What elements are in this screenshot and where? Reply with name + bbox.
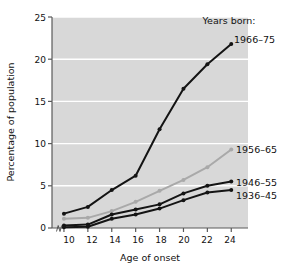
line-chart: 25 20 15 10 5 0 10 12 14 16 18 20 22 24 … <box>0 0 297 271</box>
y-tick-label-25: 25 <box>35 13 46 23</box>
x-tick-label-18: 18 <box>155 235 167 245</box>
y-axis-title: Percentage of population <box>5 62 16 181</box>
data-point <box>181 87 185 91</box>
y-tick-label-5: 5 <box>40 181 46 191</box>
data-point <box>86 205 90 209</box>
x-tick-label-14: 14 <box>109 235 121 245</box>
data-point <box>181 178 185 182</box>
data-point <box>134 174 138 178</box>
data-point <box>181 198 185 202</box>
series-label-1936-45: 1936–45 <box>236 190 277 201</box>
x-tick-label-12: 12 <box>86 235 97 245</box>
data-point <box>158 127 162 131</box>
data-point <box>62 212 66 216</box>
chart-container: 25 20 15 10 5 0 10 12 14 16 18 20 22 24 … <box>0 0 297 271</box>
data-point <box>205 62 209 66</box>
x-tick-label-16: 16 <box>132 235 144 245</box>
data-point <box>110 213 114 217</box>
x-axis-title: Age of onset <box>120 252 180 263</box>
x-tick-label-24: 24 <box>224 235 236 245</box>
data-point <box>86 225 90 229</box>
data-point <box>86 216 90 220</box>
data-point <box>62 217 66 221</box>
series-label-1966-75: 1966–75 <box>234 34 275 45</box>
data-point <box>134 207 138 211</box>
y-tick-label-10: 10 <box>35 139 47 149</box>
data-point <box>181 191 185 195</box>
data-point <box>205 191 209 195</box>
y-tick-label-15: 15 <box>35 97 46 107</box>
data-point <box>205 184 209 188</box>
data-point <box>158 202 162 206</box>
data-point <box>110 217 114 221</box>
x-tick-label-22: 22 <box>201 235 212 245</box>
y-tick-label-20: 20 <box>35 55 47 65</box>
x-tick-label-20: 20 <box>178 235 190 245</box>
data-point <box>158 189 162 193</box>
series-label-1956-65: 1956–65 <box>236 144 277 155</box>
data-point <box>229 148 233 152</box>
data-point <box>229 180 233 184</box>
x-tick-label-10: 10 <box>63 235 75 245</box>
data-point <box>229 42 233 46</box>
data-point <box>229 188 233 192</box>
x-axis-tick-marks <box>64 228 231 232</box>
data-point <box>110 188 114 192</box>
data-point <box>134 200 138 204</box>
data-point <box>62 225 66 229</box>
y-tick-label-0: 0 <box>40 223 46 233</box>
series-label-1946-55: 1946–55 <box>236 177 277 188</box>
data-point <box>158 207 162 211</box>
data-point <box>205 165 209 169</box>
data-point <box>134 213 138 217</box>
legend-title: Years born: <box>202 15 256 26</box>
